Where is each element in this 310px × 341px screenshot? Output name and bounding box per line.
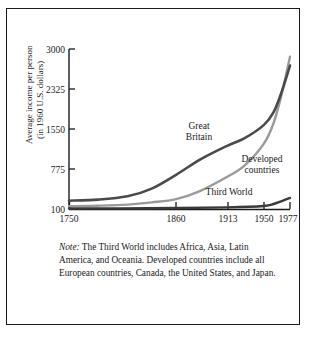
series-label-great-britain: Great Britain	[186, 121, 213, 142]
y-tick-label-1550: 1550	[46, 125, 65, 135]
y-tick-label-2325: 2325	[46, 85, 65, 95]
y-axis-title-line2: (in 1960 U.S. dollars)	[35, 61, 45, 139]
x-axis-tick-labels: 1750 1860 1913 1950 1977	[60, 214, 298, 224]
chart-plot-area: Average income per person (in 1960 U.S. …	[7, 9, 301, 234]
series-label-developed-countries: Developed countries	[241, 154, 282, 175]
figure-note: Note: The Third World includes Africa, A…	[59, 241, 284, 281]
series-label-third-world: Third World	[206, 187, 253, 197]
x-tick-label-1977: 1977	[279, 214, 298, 224]
figure-frame: Average income per person (in 1960 U.S. …	[6, 8, 300, 325]
y-axis-tick-labels: 3000 2325 1550 775 100	[46, 45, 65, 215]
series-label-developed-countries-line2: countries	[245, 165, 280, 175]
series-label-great-britain-line2: Britain	[186, 132, 213, 142]
series-label-great-britain-line1: Great	[188, 121, 209, 131]
x-tick-label-1950: 1950	[255, 214, 274, 224]
y-tick-label-775: 775	[51, 165, 66, 175]
x-tick-label-1750: 1750	[60, 214, 79, 224]
y-tick-label-100: 100	[51, 205, 66, 215]
y-axis-title-line1: Average income per person	[24, 45, 34, 144]
y-axis-title: Average income per person (in 1960 U.S. …	[24, 45, 45, 144]
series-label-developed-countries-line1: Developed	[241, 154, 282, 164]
note-text: The Third World includes Africa, Asia, L…	[59, 242, 276, 278]
y-tick-label-3000: 3000	[46, 45, 65, 55]
x-tick-label-1860: 1860	[167, 214, 186, 224]
y-axis-ticks	[69, 49, 75, 209]
note-label: Note:	[59, 242, 80, 252]
series-line-great-britain	[69, 66, 290, 201]
income-growth-line-chart: Average income per person (in 1960 U.S. …	[7, 9, 301, 234]
x-tick-label-1913: 1913	[219, 214, 238, 224]
